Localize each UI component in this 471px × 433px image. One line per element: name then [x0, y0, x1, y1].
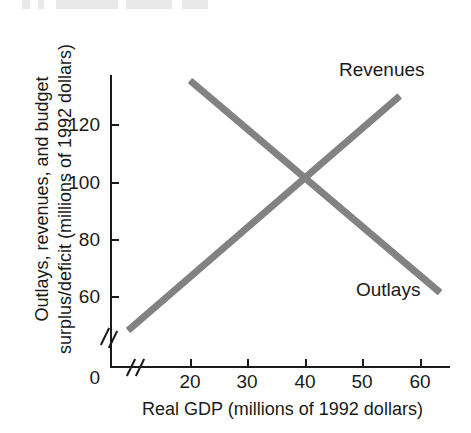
x-tick-50: [362, 359, 364, 366]
x-tick-20: [190, 359, 192, 366]
y-tick-80: [112, 239, 119, 241]
x-tick-label-60: 60: [398, 372, 442, 391]
y-axis-line: [110, 75, 112, 368]
y-axis-title: Outlays, revenues, and budget surplus/de…: [31, 19, 77, 379]
x-tick-label-20: 20: [168, 372, 212, 391]
x-axis-title: Real GDP (millions of 1992 dollars): [110, 398, 455, 420]
x-tick-label-40: 40: [283, 372, 327, 391]
y-axis-title-line1: Outlays, revenues, and budget: [31, 19, 54, 379]
x-tick-30: [247, 359, 249, 366]
x-tick-60: [420, 359, 422, 366]
y-tick-100: [112, 182, 119, 184]
x-tick-40: [305, 359, 307, 366]
x-axis-line: [110, 366, 450, 368]
x-tick-label-50: 50: [340, 372, 384, 391]
y-tick-60: [112, 296, 119, 298]
y-tick-120: [112, 124, 119, 126]
series-line-outlays: [188, 78, 443, 295]
series-label-outlays: Outlays: [356, 280, 420, 299]
x-tick-label-30: 30: [225, 372, 269, 391]
x-axis-break-icon: [126, 356, 152, 380]
y-axis-title-line2: surplus/deficit (millions of 1992 dollar…: [54, 19, 77, 379]
cropped-header-fragment: [22, 0, 262, 9]
chart-figure: 120 100 80 60 20 30 40 50 60 0 Revenues …: [0, 0, 471, 433]
y-axis-break-icon: [100, 326, 122, 352]
origin-zero-label: 0: [78, 367, 100, 389]
series-label-revenues: Revenues: [339, 60, 425, 79]
